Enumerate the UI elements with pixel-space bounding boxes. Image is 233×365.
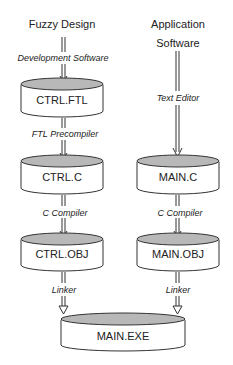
file-ctrl-c: CTRL.C <box>21 155 103 194</box>
file-ctrl-obj: CTRL.OBJ <box>21 233 103 271</box>
arrow-text-editor <box>173 51 182 157</box>
label-text-editor: Text Editor <box>157 93 201 103</box>
file-main-c: MAIN.C <box>137 155 219 194</box>
source-application-line1: Application <box>151 18 205 30</box>
label-c-compiler-left: C Compiler <box>42 208 88 218</box>
build-flow-diagram: Fuzzy Design Application Software Develo… <box>0 0 233 365</box>
svg-text:MAIN.EXE: MAIN.EXE <box>97 330 150 342</box>
file-main-obj: MAIN.OBJ <box>137 233 219 271</box>
source-application-line2: Software <box>156 37 199 49</box>
file-main-exe: MAIN.EXE <box>61 313 185 351</box>
file-ctrl-ftl: CTRL.FTL <box>21 78 103 117</box>
label-ftl-precompiler: FTL Precompiler <box>32 129 99 139</box>
svg-text:CTRL.OBJ: CTRL.OBJ <box>35 248 88 260</box>
label-c-compiler-right: C Compiler <box>157 208 203 218</box>
label-linker-right: Linker <box>166 285 192 295</box>
label-linker-left: Linker <box>52 285 78 295</box>
source-fuzzy-design: Fuzzy Design <box>29 18 96 30</box>
svg-text:MAIN.OBJ: MAIN.OBJ <box>152 248 204 260</box>
svg-text:MAIN.C: MAIN.C <box>159 171 198 183</box>
svg-text:CTRL.C: CTRL.C <box>42 171 82 183</box>
svg-text:CTRL.FTL: CTRL.FTL <box>36 94 87 106</box>
label-development-software: Development Software <box>17 53 108 63</box>
